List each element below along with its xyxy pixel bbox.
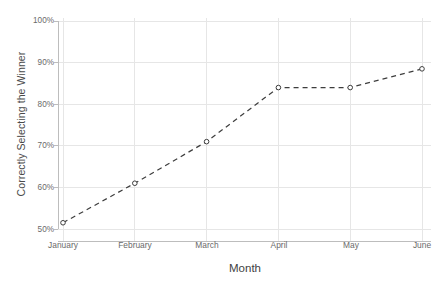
line-chart: Correctly Selecting the Winner 100% 90% … — [0, 0, 439, 284]
data-point-marker — [348, 85, 353, 90]
x-tick-label: April — [271, 241, 288, 250]
grid-lines — [58, 18, 431, 241]
x-tick-label: May — [343, 241, 359, 250]
axis-lines — [58, 21, 431, 241]
x-tick-label: January — [48, 241, 78, 250]
x-tick-label: February — [118, 241, 152, 250]
data-point-marker — [420, 67, 425, 72]
data-point-marker — [204, 139, 209, 144]
x-axis-title: Month — [60, 262, 430, 274]
tick-marks — [54, 21, 58, 229]
data-point-marker — [133, 181, 138, 186]
x-axis-tick-labels: January February March April May June — [0, 241, 439, 257]
x-tick-label: June — [413, 241, 431, 250]
x-tick-label: March — [195, 241, 218, 250]
data-point-marker — [276, 85, 281, 90]
data-point-marker — [61, 220, 66, 225]
